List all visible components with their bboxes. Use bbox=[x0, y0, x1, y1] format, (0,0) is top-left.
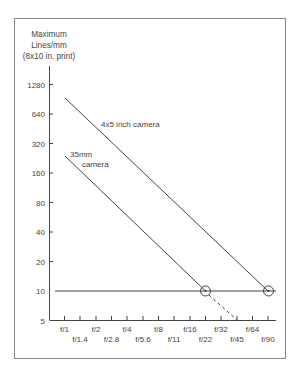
x-tick-labels-upper: f/1 f/2 f/4 f/8 f/16 f/32 f/64 bbox=[60, 325, 260, 334]
series-35mm-line bbox=[65, 156, 206, 291]
annotation-35mm-camera: camera bbox=[82, 160, 109, 169]
chart-plot: 1280 640 320 160 80 40 20 10 5 f/1 f/2 f… bbox=[0, 0, 297, 373]
x-tick-f90: f/90 bbox=[261, 335, 275, 344]
x-tick-f1: f/1 bbox=[60, 325, 69, 334]
x-tick-f1-4: f/1.4 bbox=[72, 335, 88, 344]
series-35mm-dashed-extension bbox=[209, 295, 237, 320]
x-tick-f5-6: f/5.6 bbox=[135, 335, 151, 344]
x-tick-f2: f/2 bbox=[92, 325, 101, 334]
x-tick-f16: f/16 bbox=[183, 325, 197, 334]
x-tick-f32: f/32 bbox=[214, 325, 228, 334]
y-tick-320: 320 bbox=[32, 140, 46, 149]
x-tick-f11: f/11 bbox=[168, 335, 181, 344]
x-tick-labels-lower: f/1.4 f/2.8 f/5.6 f/11 f/22 f/45 f/90 bbox=[72, 335, 275, 344]
y-tick-20: 20 bbox=[36, 258, 45, 267]
annotation-35mm: 35mm bbox=[70, 150, 93, 159]
y-tick-160: 160 bbox=[32, 169, 46, 178]
x-tick-f4: f/4 bbox=[123, 325, 132, 334]
x-ticks bbox=[65, 316, 269, 320]
y-tick-1280: 1280 bbox=[27, 81, 45, 90]
x-tick-f22: f/22 bbox=[199, 335, 213, 344]
y-tick-640: 640 bbox=[32, 110, 46, 119]
x-tick-f64: f/64 bbox=[246, 325, 260, 334]
y-tick-5: 5 bbox=[41, 317, 46, 326]
y-tick-labels: 1280 640 320 160 80 40 20 10 5 bbox=[27, 81, 45, 326]
x-tick-f2-8: f/2.8 bbox=[104, 335, 120, 344]
series-4x5-line bbox=[65, 98, 268, 291]
y-tick-80: 80 bbox=[36, 199, 45, 208]
annotation-4x5-camera: 4x5 inch camera bbox=[101, 120, 160, 129]
x-tick-f45: f/45 bbox=[230, 335, 244, 344]
x-tick-f8: f/8 bbox=[154, 325, 163, 334]
y-tick-40: 40 bbox=[36, 228, 45, 237]
y-tick-10: 10 bbox=[36, 287, 45, 296]
